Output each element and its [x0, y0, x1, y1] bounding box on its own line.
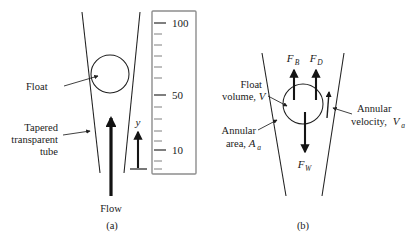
annular-velocity-label-line1: Annular	[357, 103, 392, 114]
float-volume-symbol: V	[259, 90, 267, 102]
tapered-tube-leader-line	[63, 131, 90, 135]
flow-label: Flow	[100, 203, 122, 214]
scale-label-50: 50	[172, 89, 184, 101]
weight-force-subscript: W	[305, 164, 312, 173]
tube-wall-right-b	[322, 53, 344, 196]
buoyancy-force-subscript: B	[295, 58, 300, 67]
drag-force-subscript: D	[316, 58, 323, 67]
tapered-tube-label-line3: tube	[40, 146, 58, 157]
panel-b-caption: (b)	[297, 220, 310, 232]
annular-velocity-subscript: a	[401, 121, 405, 130]
scale-label-100: 100	[172, 17, 189, 29]
y-symbol-label: y	[135, 116, 141, 128]
annular-area-label-line2: area,	[226, 138, 246, 149]
annular-area-subscript: a	[257, 143, 261, 152]
float-volume-label-line1: Float	[240, 79, 262, 90]
float-sphere-a	[91, 55, 129, 93]
rotameter-figure: Float Tapered transparent tube Flow y	[0, 0, 410, 241]
annular-area-symbol: A	[248, 137, 256, 149]
float-volume-label-line2: volume,	[222, 91, 256, 102]
panel-a-caption: (a)	[106, 220, 118, 232]
tube-wall-left-b	[262, 53, 286, 196]
tube-wall-left-a	[82, 12, 100, 173]
annular-velocity-leader-line	[333, 108, 352, 114]
scale-label-10: 10	[172, 144, 184, 156]
panel-a: Float Tapered transparent tube Flow y	[11, 11, 196, 232]
weight-force-symbol: F	[297, 158, 305, 170]
drag-force-symbol: F	[309, 52, 317, 64]
tapered-tube-label-line2: transparent	[11, 134, 58, 145]
annular-velocity-label-line2: velocity,	[351, 116, 387, 127]
annular-velocity-arrow	[327, 92, 329, 118]
panel-b: F B F D F W Float volume, V Annular area…	[222, 52, 406, 232]
annular-area-label-line1: Annular	[222, 125, 257, 136]
tapered-tube-label-line1: Tapered	[24, 122, 58, 133]
float-label: Float	[26, 81, 48, 92]
buoyancy-force-symbol: F	[286, 52, 294, 64]
figure-container: Float Tapered transparent tube Flow y	[0, 0, 410, 241]
annular-velocity-symbol: V	[393, 115, 401, 127]
